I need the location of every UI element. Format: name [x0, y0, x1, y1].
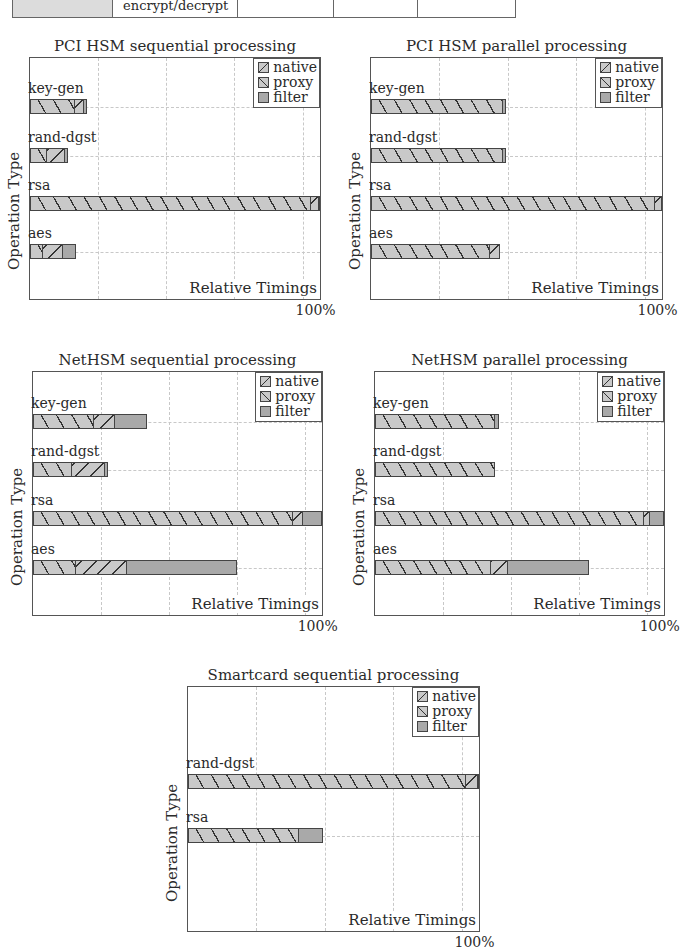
stacked-bar-rsa [188, 828, 323, 843]
chart-title: PCI HSM sequential processing [29, 37, 321, 55]
category-label: key-gen [28, 81, 84, 95]
legend-item-proxy: proxy [602, 389, 661, 404]
stacked-bar-rsa [375, 511, 664, 526]
grid-line-vertical [508, 58, 509, 299]
bar-segment-filter [299, 828, 324, 843]
y-axis-label: Operation Type [346, 152, 364, 270]
bar-segment-proxy [466, 774, 478, 789]
legend: nativeproxyfilter [412, 687, 479, 737]
legend-item-filter: filter [258, 90, 317, 105]
chart-title: Smartcard sequential processing [187, 666, 480, 684]
legend-label: proxy [617, 389, 657, 404]
bar-segment-filter [650, 511, 664, 526]
legend-label: filter [273, 90, 307, 105]
grid-line-horizontal [30, 156, 320, 157]
grid-line-vertical [325, 687, 326, 931]
legend-label: native [617, 374, 661, 389]
bar-segment-filter [503, 148, 506, 163]
grid-line-vertical [256, 687, 257, 931]
grid-line-vertical [443, 372, 444, 615]
stacked-bar-rand-dgst [30, 148, 68, 163]
legend-item-native: native [600, 60, 659, 75]
legend-item-proxy: proxy [260, 389, 319, 404]
legend-item-native: native [602, 374, 661, 389]
bar-segment-proxy [47, 148, 64, 163]
bar-segment-native [30, 196, 311, 211]
stacked-bar-aes [371, 244, 500, 259]
bar-segment-filter [303, 511, 322, 526]
x-tick-label: 100% [298, 618, 338, 634]
bar-segment-filter [115, 414, 147, 429]
grid-line-vertical [393, 687, 394, 931]
bar-segment-filter [495, 414, 499, 429]
category-label: key-gen [373, 396, 429, 410]
category-label: aes [373, 542, 397, 556]
legend-swatch-filter-icon [602, 406, 613, 417]
grid-line-vertical [101, 372, 102, 615]
category-label: rand-dgst [369, 130, 437, 144]
x-axis-label: Relative Timings [191, 595, 319, 613]
legend-item-proxy: proxy [258, 75, 317, 90]
bar-segment-native [371, 99, 503, 114]
bar-segment-native [30, 244, 43, 259]
stacked-bar-rand-dgst [371, 148, 506, 163]
legend: nativeproxyfilter [595, 58, 662, 108]
bar-segment-native [30, 148, 47, 163]
category-label: key-gen [369, 81, 425, 95]
chart-title: NetHSM sequential processing [32, 351, 323, 369]
legend-label: proxy [615, 75, 655, 90]
grid-line-vertical [234, 58, 235, 299]
legend-item-native: native [258, 60, 317, 75]
bar-segment-native [371, 148, 503, 163]
legend-label: proxy [275, 389, 315, 404]
grid-line-vertical [576, 58, 577, 299]
plot-area: key-genrand-dgstrsaaesnativeproxyfilterR… [374, 371, 665, 616]
bar-segment-filter [319, 196, 320, 211]
grid-line-vertical [439, 58, 440, 299]
legend-swatch-native-icon [260, 376, 271, 387]
legend-swatch-filter-icon [258, 92, 269, 103]
legend-swatch-proxy-icon [260, 391, 271, 402]
bar-segment-proxy [293, 511, 303, 526]
bar-segment-proxy [43, 244, 63, 259]
legend-label: filter [275, 404, 309, 419]
legend-swatch-proxy-icon [258, 77, 269, 88]
bar-segment-native [33, 414, 94, 429]
bar-segment-proxy [490, 244, 500, 259]
category-label: rsa [186, 810, 208, 824]
legend-item-proxy: proxy [417, 704, 476, 719]
category-label: rand-dgst [31, 444, 99, 458]
category-label: rsa [28, 178, 50, 192]
bar-segment-native [375, 462, 495, 477]
bar-segment-filter [503, 99, 506, 114]
bar-segment-filter [127, 560, 237, 575]
legend-item-proxy: proxy [600, 75, 659, 90]
category-label: rand-dgst [373, 444, 441, 458]
grid-line-vertical [511, 372, 512, 615]
bar-segment-native [30, 99, 75, 114]
bar-segment-proxy [311, 196, 318, 211]
stacked-bar-aes [33, 560, 237, 575]
category-label: rsa [31, 493, 53, 507]
legend-swatch-filter-icon [417, 721, 428, 732]
category-label: aes [28, 226, 52, 240]
bar-segment-filter [105, 462, 108, 477]
legend-label: proxy [432, 704, 472, 719]
chart-title: NetHSM parallel processing [374, 351, 665, 369]
stacked-bar-key-gen [371, 99, 506, 114]
x-tick-label: 100% [296, 302, 336, 318]
bar-segment-filter [84, 99, 87, 114]
x-axis-label: Relative Timings [348, 911, 476, 929]
grid-line-vertical [579, 372, 580, 615]
table-cell [13, 0, 113, 17]
table-fragment: encrypt/decrypt [12, 0, 516, 18]
x-tick-label: 100% [455, 934, 495, 949]
bar-segment-native [188, 774, 466, 789]
x-axis-label: Relative Timings [189, 279, 317, 297]
stacked-bar-rand-dgst [33, 462, 108, 477]
legend-label: proxy [273, 75, 313, 90]
bar-segment-native [188, 828, 299, 843]
category-label: rand-dgst [186, 756, 254, 770]
legend-swatch-filter-icon [260, 406, 271, 417]
y-axis-label: Operation Type [8, 468, 26, 586]
